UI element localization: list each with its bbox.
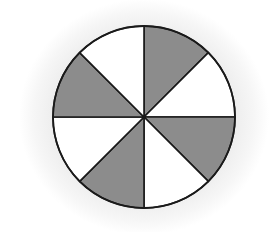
center-point [142,115,146,119]
fraction-circle [0,0,271,232]
diagram-canvas [0,0,271,232]
